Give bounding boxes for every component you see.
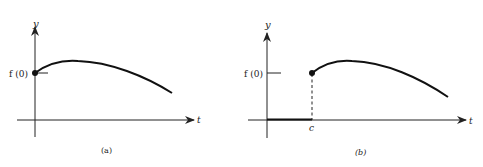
f0-label: f (0)	[244, 69, 263, 79]
y-axis-label: y	[32, 18, 39, 29]
caption-b: (b)	[355, 148, 366, 157]
start-point	[309, 70, 315, 76]
x-axis-label: t	[197, 115, 201, 125]
panel-a: y t f (0) (a)	[9, 18, 201, 155]
caption-a: (a)	[101, 146, 112, 155]
c-label: c	[309, 123, 314, 133]
x-axis-label: t	[469, 116, 473, 126]
figure: y t f (0) (a) y t f (0) c (b)	[0, 0, 483, 167]
f0-label: f (0)	[9, 69, 28, 79]
panel-b: y t f (0) c (b)	[244, 19, 473, 157]
function-curve	[35, 61, 172, 93]
function-curve	[312, 61, 448, 97]
y-axis-label: y	[264, 19, 271, 30]
start-point	[32, 70, 38, 76]
